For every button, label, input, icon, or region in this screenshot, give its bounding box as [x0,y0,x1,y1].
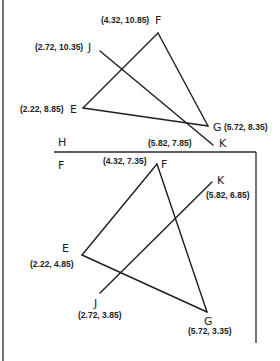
bottom-j-coord: (2.72, 3.85) [78,310,122,320]
bottom-segment-ef [82,164,157,255]
top-segment-fg [158,33,208,126]
top-k-label: K [219,137,227,150]
bottom-segment-ge [82,255,207,312]
bottom-e-label: E [62,242,69,255]
top-k-coord: (5.82, 7.85) [148,138,192,148]
top-e-label: E [70,103,77,116]
bottom-k-coord: (5.82, 6.85) [206,190,250,200]
top-segment-jk [100,51,213,145]
top-f-coord: (4.32, 10.85) [101,15,149,25]
bottom-segment-fg [157,164,207,312]
top-g-label: G [213,121,222,134]
bottom-j-label: J [93,297,97,310]
divider-label-f: F [58,159,64,172]
bottom-f-coord: (4.32, 7.35) [103,156,147,166]
top-segment-ge [83,108,208,126]
top-e-coord: (2.22, 8.85) [20,104,64,114]
top-f-label: F [155,14,161,27]
top-segment-ef [83,33,158,108]
bottom-f-label: F [161,158,167,171]
divider-label-h: H [58,136,66,149]
bottom-k-label: K [217,174,225,187]
top-panel: (4.32, 10.85) F (2.72, 10.35) J (2.22, 8… [20,14,268,150]
bottom-panel: (4.32, 7.35) F K (5.82, 6.85) E (2.22, 4… [30,156,250,336]
bottom-e-coord: (2.22, 4.85) [30,259,74,269]
bottom-g-coord: (5.72, 3.35) [188,326,232,336]
top-j-label: J [87,41,91,54]
top-g-coord: (5.72, 8.35) [224,122,268,132]
geometry-diagram: (4.32, 10.85) F (2.72, 10.35) J (2.22, 8… [0,0,280,361]
top-j-coord: (2.72, 10.35) [35,42,83,52]
